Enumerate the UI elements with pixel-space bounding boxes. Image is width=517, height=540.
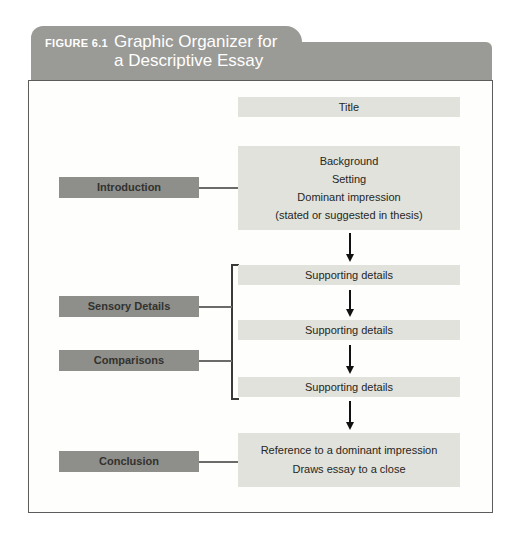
down-arrow-2-head (346, 309, 354, 317)
conclusion-line-close: Draws essay to a close (238, 460, 460, 479)
down-arrow-1-line (349, 233, 351, 254)
down-arrow-3 (345, 345, 354, 374)
title-box: Title (238, 97, 460, 117)
supporting-details-box-1: Supporting details (238, 265, 460, 285)
sensory-details-label: Sensory Details (59, 296, 199, 317)
figure-title-line-2: a Descriptive Essay (114, 51, 277, 70)
down-arrow-1-head (346, 254, 354, 262)
conclusion-content-box: Reference to a dominant impression Draws… (238, 433, 460, 487)
introduction-label: Introduction (59, 177, 199, 198)
figure-title: Graphic Organizer for a Descriptive Essa… (114, 32, 277, 70)
introduction-line-dominant-impression: Dominant impression (238, 188, 460, 206)
conclusion-connector-line (199, 461, 238, 463)
down-arrow-2 (345, 290, 354, 317)
figure-6-1: FIGURE 6.1 Graphic Organizer for a Descr… (0, 0, 517, 540)
supporting-details-box-3: Supporting details (238, 377, 460, 397)
sensory-details-connector-line (199, 306, 232, 308)
introduction-line-background: Background (238, 152, 460, 170)
down-arrow-3-head (346, 366, 354, 374)
introduction-content-box: Background Setting Dominant impression (… (238, 146, 460, 230)
down-arrow-1 (345, 233, 354, 262)
down-arrow-4 (345, 401, 354, 430)
down-arrow-4-head (346, 422, 354, 430)
introduction-line-thesis-note: (stated or suggested in thesis) (238, 206, 460, 224)
figure-number-label: FIGURE 6.1 (45, 37, 108, 50)
down-arrow-2-line (349, 290, 351, 309)
supporting-details-box-2: Supporting details (238, 320, 460, 340)
introduction-connector-line (199, 187, 238, 189)
down-arrow-3-line (349, 345, 351, 366)
comparisons-connector-line (199, 360, 232, 362)
introduction-line-setting: Setting (238, 170, 460, 188)
conclusion-line-reference: Reference to a dominant impression (238, 441, 460, 460)
figure-title-line-1: Graphic Organizer for (114, 32, 277, 51)
comparisons-label: Comparisons (59, 350, 199, 371)
down-arrow-4-line (349, 401, 351, 422)
conclusion-label: Conclusion (59, 451, 199, 472)
